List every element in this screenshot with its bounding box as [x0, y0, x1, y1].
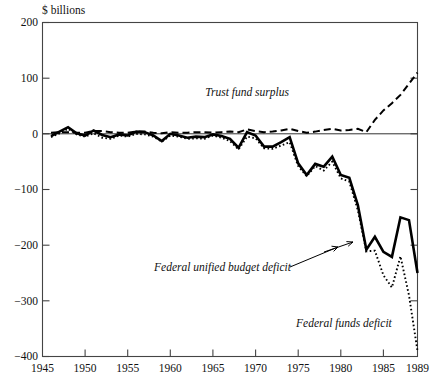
- y-tick-label: −400: [14, 350, 38, 362]
- y-tick-label: 100: [21, 72, 39, 84]
- x-tick-label: 1945: [31, 362, 54, 374]
- series-line-trust-fund-surplus: [51, 73, 417, 134]
- annotation-trust-fund-surplus: Trust fund surplus: [205, 86, 289, 99]
- chart-figure: $ billions 200 100 0 −100 −200: [0, 0, 432, 386]
- y-tick-label: −300: [14, 295, 38, 307]
- y-axis-unit-label: $ billions: [42, 4, 86, 16]
- x-tick-label: 1989: [406, 362, 429, 374]
- x-tick-label: 1970: [244, 362, 267, 374]
- y-tick-label: −200: [14, 239, 38, 251]
- x-tick-label: 1955: [116, 362, 139, 374]
- y-tick-label: 200: [21, 16, 39, 28]
- x-tick-label: 1965: [201, 362, 224, 374]
- x-axis-ticks: [85, 350, 383, 357]
- y-axis-ticks: [43, 23, 50, 357]
- series-line-federal-unified-budget-deficit: [51, 127, 417, 273]
- y-tick-label: 0: [32, 128, 38, 140]
- y-tick-label: −100: [14, 183, 38, 195]
- x-tick-label: 1985: [372, 362, 395, 374]
- x-axis-tick-labels: 1945 1950 1955 1960 1965 1970 1975 1980 …: [31, 362, 429, 374]
- x-tick-label: 1950: [74, 362, 97, 374]
- annotation-federal-funds-deficit: Federal funds deficit: [295, 317, 393, 330]
- chart-svg: $ billions 200 100 0 −100 −200: [0, 0, 432, 386]
- annotation-federal-unified-budget-deficit: Federal unified budget deficit: [153, 261, 292, 274]
- x-tick-label: 1980: [329, 362, 352, 374]
- x-tick-label: 1975: [287, 362, 310, 374]
- y-axis-tick-labels: 200 100 0 −100 −200 −300 −400: [14, 16, 38, 362]
- plot-frame: [43, 23, 418, 357]
- annotation-leaders: [290, 242, 353, 267]
- x-tick-label: 1960: [159, 362, 182, 374]
